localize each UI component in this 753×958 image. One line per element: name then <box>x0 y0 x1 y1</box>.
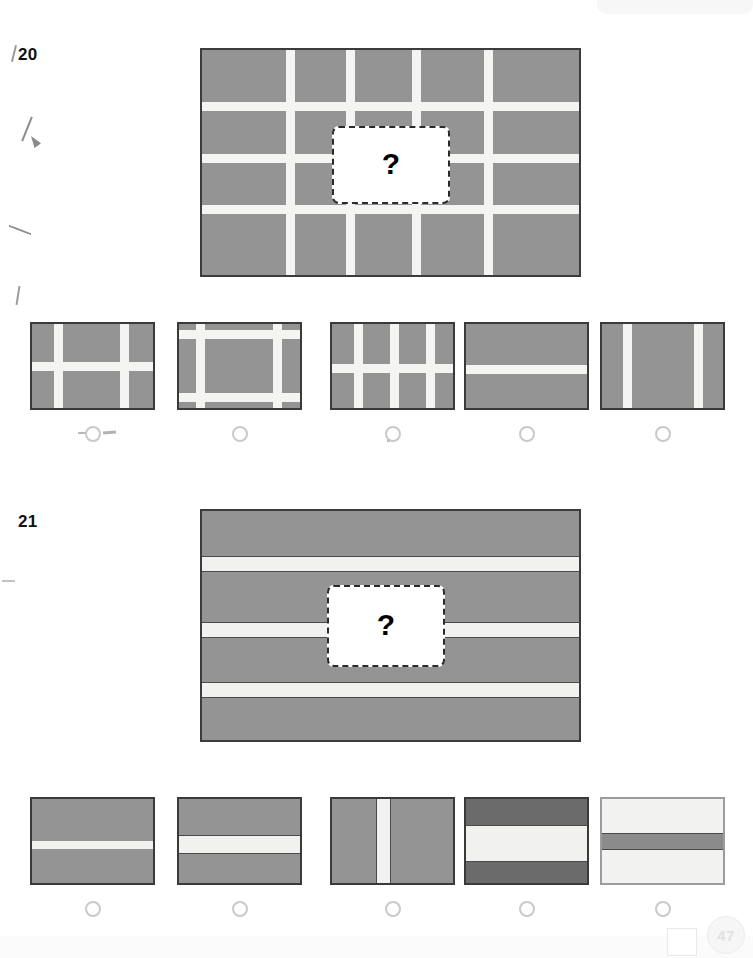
answer-option-figure-b[interactable] <box>177 797 302 885</box>
scan-artifact-mark <box>16 286 21 305</box>
option-line-horizontal <box>464 365 589 374</box>
grid-line-horizontal <box>200 205 581 214</box>
answer-radio-c[interactable] <box>385 901 401 917</box>
answer-option-c[interactable] <box>330 322 455 442</box>
option-line-horizontal <box>177 393 302 402</box>
option-stripe-horizontal <box>30 841 155 849</box>
answer-option-figure-a[interactable] <box>30 797 155 885</box>
option-line-vertical <box>694 322 703 410</box>
option-stripe-horizontal <box>600 833 725 850</box>
answer-option-figure-c[interactable] <box>330 797 455 885</box>
answer-option-c[interactable] <box>330 797 455 917</box>
option-stripe-horizontal <box>464 825 589 862</box>
option-line-horizontal <box>330 364 455 373</box>
footer-square-marker <box>667 928 697 956</box>
grid-line-vertical <box>484 48 493 277</box>
option-line-horizontal <box>177 330 302 339</box>
answer-radio-b[interactable] <box>232 426 248 442</box>
answer-option-figure-c[interactable] <box>330 322 455 410</box>
answer-radio-a[interactable] <box>85 426 101 442</box>
answer-option-figure-d[interactable] <box>464 797 589 885</box>
answer-radio-a[interactable] <box>85 901 101 917</box>
grid-line-vertical <box>286 48 295 277</box>
option-stripe-vertical <box>376 797 391 885</box>
option-line-horizontal <box>30 362 155 371</box>
question-mark-glyph: ? <box>377 610 395 640</box>
answer-option-e[interactable] <box>600 322 725 442</box>
answer-radio-c[interactable] <box>385 426 401 442</box>
answer-option-figure-d[interactable] <box>464 322 589 410</box>
answer-option-figure-b[interactable] <box>177 322 302 410</box>
question-number-20: 20 <box>18 45 38 65</box>
scan-artifact-mark <box>11 45 17 62</box>
answer-option-d[interactable] <box>464 797 589 917</box>
question-21-missing-piece-box: ? <box>327 585 445 667</box>
answer-option-b[interactable] <box>177 797 302 917</box>
question-21-options-row <box>0 797 753 927</box>
scan-artifact-mark <box>2 580 15 582</box>
answer-option-figure-a[interactable] <box>30 322 155 410</box>
answer-radio-b[interactable] <box>232 901 248 917</box>
stimulus-stripe <box>200 682 581 698</box>
header-ghost-band <box>597 0 753 14</box>
scan-artifact-mark <box>31 136 41 148</box>
answer-option-a[interactable] <box>30 322 155 442</box>
scan-artifact-mark <box>21 117 33 142</box>
option-line-vertical <box>623 322 632 410</box>
scan-artifact-mark <box>8 225 32 235</box>
stimulus-stripe <box>200 556 581 572</box>
question-20-options-row <box>0 322 753 452</box>
answer-option-b[interactable] <box>177 322 302 442</box>
footer-band <box>0 936 753 958</box>
answer-option-e[interactable] <box>600 797 725 917</box>
answer-radio-d[interactable] <box>519 426 535 442</box>
answer-radio-e[interactable] <box>655 426 671 442</box>
question-mark-glyph: ? <box>382 149 400 179</box>
answer-radio-d[interactable] <box>519 901 535 917</box>
answer-radio-e[interactable] <box>655 901 671 917</box>
answer-option-figure-e[interactable] <box>600 322 725 410</box>
grid-line-horizontal <box>200 102 581 111</box>
answer-option-d[interactable] <box>464 322 589 442</box>
question-number-21: 21 <box>18 512 38 532</box>
answer-option-a[interactable] <box>30 797 155 917</box>
answer-option-figure-e[interactable] <box>600 797 725 885</box>
option-stripe-horizontal <box>177 835 302 854</box>
question-20-missing-piece-box: ? <box>332 126 450 204</box>
